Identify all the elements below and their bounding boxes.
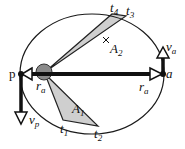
label-t1: t1 <box>60 121 68 138</box>
label-t4: t4 <box>110 0 119 17</box>
label-r-aphelion: ra <box>139 79 149 96</box>
label-r-perihelion: ra <box>36 78 46 95</box>
label-v-aphelion: va <box>166 39 177 56</box>
label-t2: t2 <box>94 126 103 143</box>
label-perihelion: p <box>9 66 16 81</box>
kepler-orbit-diagram: p a ra ra vp va A1 A2 t1 t2 t3 t4 <box>0 0 185 149</box>
label-area1: A1 <box>71 101 84 118</box>
velocity-perihelion-arrowhead <box>15 112 27 124</box>
label-area2: A2 <box>109 41 123 58</box>
label-aphelion: a <box>166 66 173 81</box>
label-t3: t3 <box>126 3 135 20</box>
area-sector-a1 <box>45 74 98 126</box>
